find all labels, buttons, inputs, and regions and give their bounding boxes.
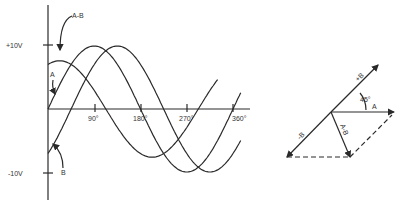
phasor-diagram: 45° +B A -B A-B [287, 65, 394, 157]
label-plus-b: +B [354, 71, 365, 82]
callout-a-minus-b [60, 16, 72, 50]
callout-b [53, 144, 63, 168]
waveform-chart: +10V -10V 90° 180° 270° 360° A-B A B [6, 5, 250, 200]
label-a: A [50, 71, 55, 78]
diagram-canvas: +10V -10V 90° 180° 270° 360° A-B A B 45°… [0, 0, 414, 211]
label-45deg: 45° [360, 96, 371, 103]
label-pos10v: +10V [6, 42, 23, 49]
label-b: B [61, 169, 66, 176]
label-a-minus-b: A-B [72, 12, 84, 19]
vector-minus-b [287, 112, 331, 157]
vector-plus-b [331, 65, 378, 112]
dashed-side [350, 115, 392, 157]
callout-a [53, 80, 55, 94]
tick-360: 360° [232, 115, 247, 122]
label-a-phasor: A [372, 103, 377, 110]
label-neg10v: -10V [8, 170, 23, 177]
tick-90: 90° [88, 115, 99, 122]
